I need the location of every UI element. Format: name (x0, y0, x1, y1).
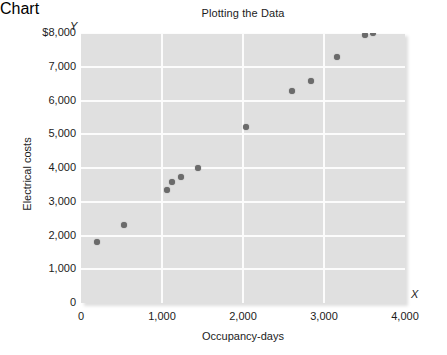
x-axis-title: Occupancy-days (81, 330, 405, 342)
data-point (370, 33, 376, 36)
data-point (289, 88, 295, 94)
y-tick-label: 0 (10, 296, 76, 308)
data-point (121, 222, 127, 228)
x-axis-tick-labels: 01,0002,0003,0004,000 (0, 310, 447, 326)
y-tick-label: 7,000 (10, 60, 76, 72)
data-point (195, 165, 201, 171)
x-tick-label: 0 (51, 310, 111, 322)
gridline-vertical (242, 33, 244, 303)
data-point (243, 124, 249, 130)
data-point (94, 239, 100, 245)
y-tick-label: 5,000 (10, 127, 76, 139)
data-point (169, 179, 175, 185)
data-point (334, 54, 340, 60)
scatter-chart-figure: Plotting the Data Y X Electrical costs O… (0, 0, 447, 355)
x-tick-label: 3,000 (294, 310, 354, 322)
data-point (362, 33, 368, 38)
gridline-vertical (323, 33, 325, 303)
plot-area (81, 33, 405, 303)
data-point (308, 78, 314, 84)
y-tick-label: 6,000 (10, 94, 76, 106)
y-axis-tick-labels: 01,0002,0003,0004,0005,0006,0007,000$8,0… (8, 0, 76, 355)
x-tick-label: 1,000 (132, 310, 192, 322)
y-tick-label: 4,000 (10, 161, 76, 173)
gridline-vertical (161, 33, 163, 303)
y-tick-label: 3,000 (10, 195, 76, 207)
y-tick-label: $8,000 (10, 26, 76, 38)
y-tick-label: 2,000 (10, 229, 76, 241)
x-axis-name: X (411, 288, 418, 300)
data-point (178, 174, 184, 180)
x-tick-label: 4,000 (375, 310, 435, 322)
chart-title: Plotting the Data (81, 7, 405, 19)
x-tick-label: 2,000 (213, 310, 273, 322)
data-point (164, 187, 170, 193)
y-tick-label: 1,000 (10, 262, 76, 274)
